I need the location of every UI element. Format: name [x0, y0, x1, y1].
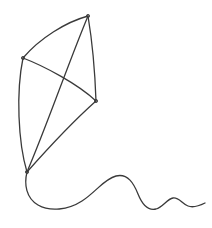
illustration-canvas	[0, 0, 212, 228]
background	[0, 0, 212, 228]
kite-drawing	[0, 0, 212, 228]
